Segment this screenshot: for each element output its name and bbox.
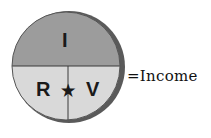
voltage-label: V: [86, 79, 99, 99]
income-equation: =Income: [127, 67, 198, 85]
current-label: I: [62, 30, 68, 50]
resistance-label: R: [36, 79, 50, 99]
multiply-star-icon: ★: [61, 81, 75, 101]
